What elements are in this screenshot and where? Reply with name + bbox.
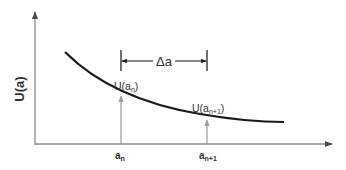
label-u-an: U(an) (114, 80, 138, 93)
utility-curve (65, 52, 284, 122)
x-label-an: an (115, 150, 125, 162)
y-axis-label: U(a) (12, 76, 27, 101)
label-u-an1: U(an+1) (192, 102, 224, 115)
utility-diagram: U(a) U(an) U(an+1) Δa an an+1 (0, 0, 346, 170)
delta-a-interval: Δa (121, 50, 207, 71)
delta-a-label: Δa (156, 54, 173, 69)
x-label-an1: an+1 (199, 150, 217, 162)
axes (35, 12, 332, 145)
